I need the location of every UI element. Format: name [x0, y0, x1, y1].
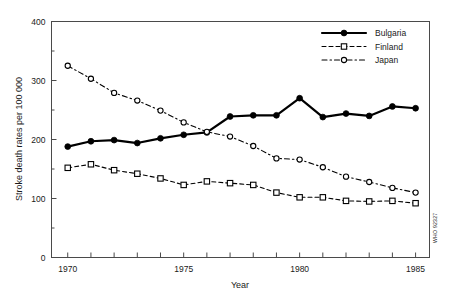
y-tick-label: 400 [31, 17, 45, 27]
y-axis-title: Stroke death rates per 100 000 [14, 77, 24, 201]
x-tick-label: 1980 [290, 264, 309, 274]
data-point-marker [390, 198, 395, 203]
x-tick-label: 1970 [58, 264, 77, 274]
data-point-marker [274, 190, 279, 195]
legend-label: Japan [375, 55, 398, 65]
data-point-marker [158, 176, 163, 181]
data-point-marker [343, 174, 348, 179]
data-point-marker [227, 134, 232, 139]
data-point-marker [135, 98, 140, 103]
data-point-marker [181, 182, 186, 187]
source-credit: WHO 92327 [432, 213, 438, 243]
data-point-marker [413, 201, 418, 206]
data-point-marker [135, 171, 140, 176]
data-point-marker [341, 57, 346, 62]
data-point-marker [111, 167, 116, 172]
data-point-marker [111, 137, 117, 143]
data-point-marker [274, 156, 279, 161]
data-point-marker [181, 120, 186, 125]
data-point-marker [274, 112, 280, 118]
data-point-marker [389, 104, 395, 110]
data-point-marker [65, 144, 71, 150]
legend-label: Bulgaria [375, 28, 406, 38]
data-point-marker [204, 179, 209, 184]
data-point-marker [343, 198, 348, 203]
data-point-marker [158, 108, 163, 113]
data-point-marker [158, 135, 164, 141]
data-point-marker [320, 114, 326, 120]
x-tick-label: 1975 [174, 264, 193, 274]
data-point-marker [320, 195, 325, 200]
data-point-marker [65, 165, 70, 170]
y-tick-label: 100 [31, 194, 45, 204]
data-point-marker [88, 76, 93, 81]
data-point-marker [88, 162, 93, 167]
data-point-marker [343, 111, 349, 117]
data-point-marker [181, 132, 187, 138]
data-point-marker [88, 138, 94, 144]
data-point-marker [204, 129, 209, 134]
x-tick-label: 1985 [406, 264, 425, 274]
data-point-marker [341, 30, 347, 36]
data-point-marker [134, 140, 140, 146]
y-tick-label: 0 [41, 253, 46, 263]
data-point-marker [320, 165, 325, 170]
data-point-marker [65, 63, 70, 68]
data-point-marker [366, 113, 372, 119]
data-point-marker [413, 105, 419, 111]
data-point-marker [251, 143, 256, 148]
data-point-marker [341, 44, 346, 49]
data-point-marker [297, 157, 302, 162]
data-point-marker [413, 190, 418, 195]
legend-label: Finland [375, 42, 403, 52]
data-point-marker [297, 195, 302, 200]
x-axis-title: Year [231, 280, 249, 290]
y-tick-label: 200 [31, 135, 45, 145]
data-point-marker [390, 185, 395, 190]
data-point-marker [297, 95, 303, 101]
data-point-marker [251, 182, 256, 187]
data-point-marker [227, 180, 232, 185]
data-point-marker [250, 112, 256, 118]
data-point-marker [367, 199, 372, 204]
y-tick-label: 300 [31, 76, 45, 86]
data-point-marker [227, 114, 233, 120]
stroke-death-rates-line-chart: 0100200300400 1970197519801985 BulgariaF… [0, 0, 453, 295]
data-point-marker [367, 179, 372, 184]
data-point-marker [112, 90, 117, 95]
chart-figure: 0100200300400 1970197519801985 BulgariaF… [0, 0, 453, 295]
